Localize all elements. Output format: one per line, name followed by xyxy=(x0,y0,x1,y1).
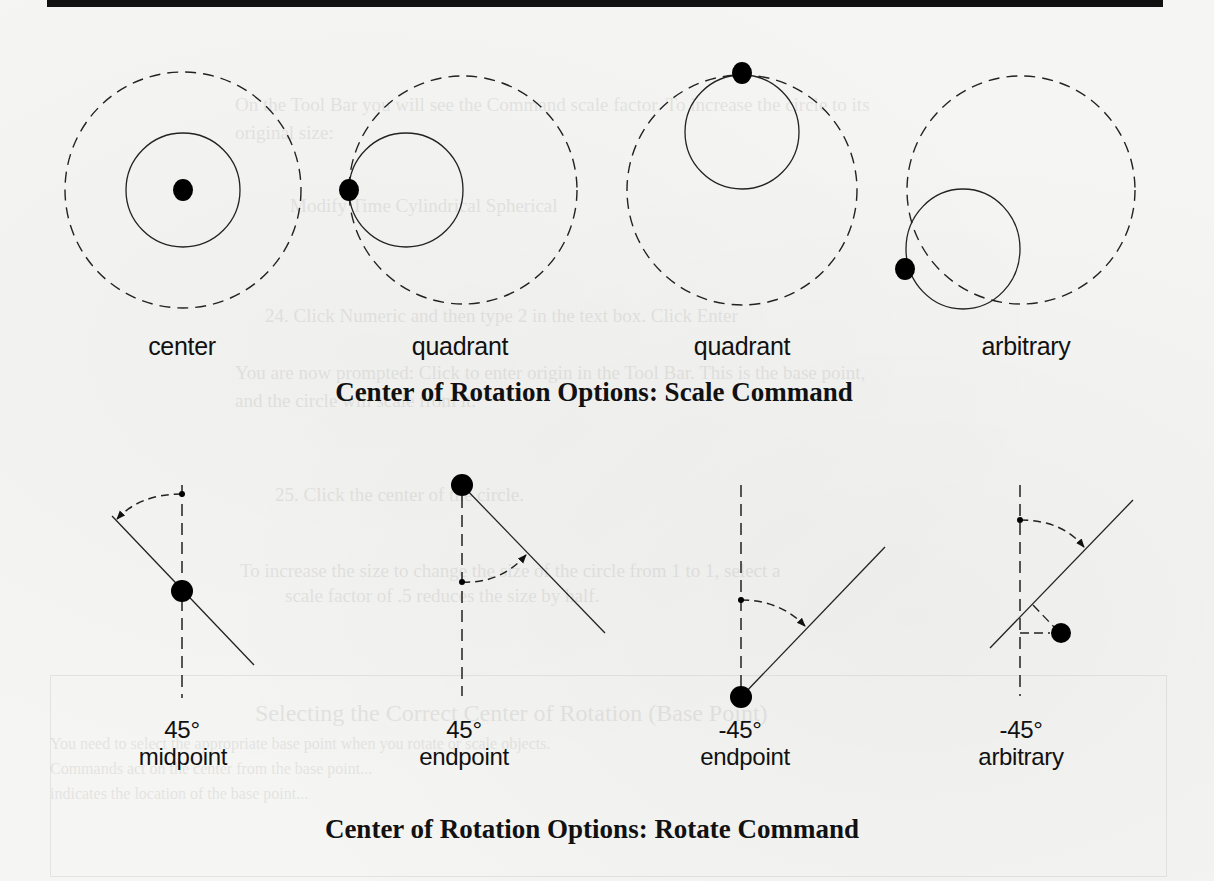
base-point-dot xyxy=(730,686,752,708)
arc-start-dot xyxy=(179,491,185,497)
rotate-angle-2: 45° xyxy=(446,718,481,742)
rotate-figure-45-endpoint xyxy=(451,474,605,696)
base-point-dot xyxy=(1051,623,1071,643)
arc-start-dot xyxy=(459,579,465,585)
rotate-label-endpoint-2: endpoint xyxy=(700,745,790,769)
rotate-label-arbitrary: arbitrary xyxy=(978,745,1063,769)
scale-figure-quadrant-top xyxy=(627,62,857,305)
rotate-figure-neg45-arbitrary xyxy=(990,485,1133,696)
scale-figure-arbitrary xyxy=(895,76,1135,309)
scale-label-quadrant-top: quadrant xyxy=(694,334,790,359)
rotate-figure-45-midpoint xyxy=(112,485,254,698)
base-point-dot xyxy=(895,258,915,280)
scale-label-arbitrary: arbitrary xyxy=(982,334,1071,359)
rotation-arc-arrow xyxy=(117,494,182,519)
scale-label-center: center xyxy=(148,334,216,359)
rotated-line xyxy=(741,547,885,697)
scaled-circle-outline xyxy=(627,75,857,305)
rotate-label-midpoint: midpoint xyxy=(139,745,227,769)
rotate-label-endpoint-1: endpoint xyxy=(419,745,509,769)
scale-figure-center xyxy=(65,72,301,308)
rotation-arc-arrow xyxy=(741,600,805,626)
rotate-angle-3: -45° xyxy=(718,718,761,742)
arc-start-dot xyxy=(738,597,744,603)
original-circle xyxy=(349,133,463,247)
scale-figure-quadrant-left xyxy=(339,76,577,304)
rotated-line xyxy=(462,485,605,633)
offset-perpendicular-guide xyxy=(1033,605,1054,627)
rotation-arc-arrow xyxy=(1020,520,1084,547)
rotation-arc-arrow xyxy=(462,555,526,582)
arc-start-dot xyxy=(1017,517,1023,523)
rotate-angle-4: -45° xyxy=(999,718,1042,742)
base-point-dot xyxy=(451,474,473,496)
rotate-angle-1: 45° xyxy=(164,718,199,742)
original-circle xyxy=(685,75,799,189)
rotate-section-title: Center of Rotation Options: Rotate Comma… xyxy=(325,816,859,843)
base-point-dot xyxy=(173,179,193,201)
base-point-dot xyxy=(339,179,359,201)
scale-label-quadrant-left: quadrant xyxy=(412,334,508,359)
scale-section-title: Center of Rotation Options: Scale Comman… xyxy=(335,379,853,406)
base-point-dot xyxy=(732,62,752,84)
rotate-figure-neg45-endpoint xyxy=(730,485,885,708)
scaled-circle-outline xyxy=(907,76,1135,304)
base-point-dot xyxy=(171,580,193,602)
